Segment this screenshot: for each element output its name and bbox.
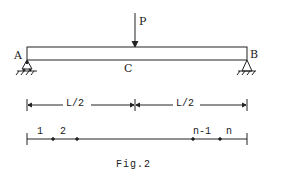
node-label-n-1: n-1 (193, 127, 211, 137)
node-label-2: 2 (60, 127, 66, 137)
figure-caption: Fig.2 (116, 160, 151, 170)
node-dot (76, 138, 79, 141)
midpoint-c-label: C (124, 63, 132, 74)
support-right-icon (237, 60, 256, 75)
node-dot (192, 138, 195, 141)
dimension-line (27, 99, 247, 111)
pin-support-left-icon (16, 60, 37, 75)
node-label-n: n (226, 127, 232, 137)
beam (27, 47, 247, 60)
load-arrow-icon (132, 13, 138, 47)
support-a-label: A (14, 50, 22, 61)
node-dot (52, 138, 55, 141)
left-span-label: L/2 (66, 99, 84, 109)
node-label-1: 1 (37, 127, 43, 137)
load-label: P (139, 16, 146, 27)
support-b-label: B (250, 49, 258, 60)
node-dot (219, 138, 222, 141)
right-span-label: L/2 (176, 99, 194, 109)
